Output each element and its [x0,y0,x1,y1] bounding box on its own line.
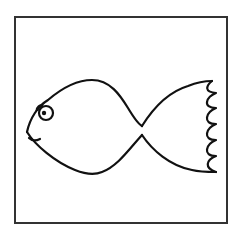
fish-tail-edge [207,81,216,172]
fish-pupil [42,111,46,115]
fish-tail-top [142,81,212,126]
fish-mouth [29,138,40,140]
fish-body-bottom [27,132,142,174]
fish-drawing [0,0,238,235]
fish-tail-bottom [142,135,216,172]
